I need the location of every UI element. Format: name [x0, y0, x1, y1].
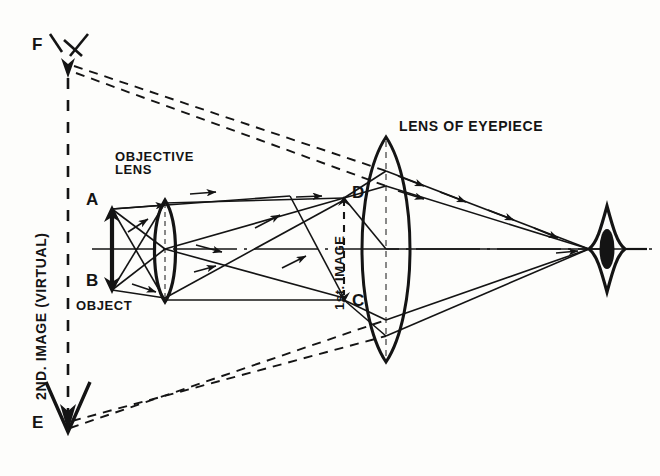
diagram-canvas: 2ND. IMAGE (VIRTUAL) OBJECTIVE LENS OBJE… [0, 0, 660, 476]
ray-diagram-svg [0, 0, 660, 476]
objective-lens-label: OBJECTIVE LENS [115, 150, 194, 177]
point-label-b: B [86, 272, 98, 289]
lens-of-eyepiece-label: LENS OF EYEPIECE [399, 119, 543, 133]
rays-eyepiece [344, 171, 607, 336]
ray-direction-arrows-eyepiece [398, 176, 578, 253]
point-label-e: E [32, 414, 43, 431]
object-label: OBJECT [76, 299, 132, 312]
rays-objective [112, 196, 344, 300]
point-label-a: A [86, 191, 98, 208]
point-label-d: D [352, 184, 364, 201]
second-image-arrow [46, 34, 90, 432]
first-image-label: 1st. IMAGE [333, 235, 346, 310]
point-label-f: F [32, 36, 42, 53]
second-image-label: 2ND. IMAGE (VIRTUAL) [34, 232, 48, 400]
point-label-c: C [352, 292, 364, 309]
